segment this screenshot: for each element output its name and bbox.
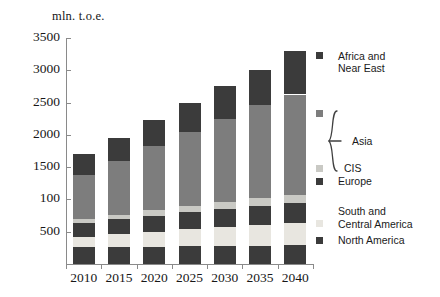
bar-segment-2020-cis (143, 210, 165, 215)
bar-segment-2015-cis (108, 215, 130, 219)
x-tick-origin (66, 264, 67, 269)
bar-segment-2010-asia (73, 175, 95, 219)
bar-segment-2020-asia (143, 146, 165, 210)
bar-segment-2025-cis (179, 206, 201, 212)
y-tick-label-3500: 3500 (14, 29, 60, 45)
bar-segment-2025-south-and-central-america (179, 229, 201, 246)
y-tick-label-2500: 2500 (14, 94, 60, 110)
legend-swatch-asia (316, 110, 323, 117)
bar-segment-2010-europe (73, 223, 95, 237)
legend-label-south-and-central-america-line1: South and (338, 205, 386, 218)
x-tick-2030 (242, 264, 243, 269)
legend: Africa and Near East Asia CIS Europe Sou… (316, 52, 440, 282)
legend-swatch-south-and-central-america (316, 220, 323, 227)
legend-swatch-north-america (316, 237, 323, 244)
legend-label-asia: Asia (352, 135, 372, 147)
bar-segment-2015-europe (108, 219, 130, 234)
bar-segment-2010-north-america (73, 247, 95, 264)
x-tick-2015 (137, 264, 138, 269)
bar-segment-2010-africa-and-near-east (73, 154, 95, 175)
y-tick-label-1500: 1500 (14, 158, 60, 174)
bar-segment-2030-cis (214, 202, 236, 208)
bar-segment-2030-asia (214, 119, 236, 202)
y-axis-labels: 50010015002000250030003500 (14, 0, 60, 297)
bar-segment-2015-south-and-central-america (108, 234, 130, 247)
x-axis-line (66, 264, 313, 265)
y-tick-label-3000: 3000 (14, 61, 60, 77)
bar-2030[interactable] (214, 38, 236, 264)
bar-segment-2020-europe (143, 216, 165, 232)
bar-segment-2020-north-america (143, 247, 165, 264)
bar-segment-2015-africa-and-near-east (108, 138, 130, 161)
legend-label-south-and-central-america-line2: Central America (338, 218, 413, 231)
bar-segment-2040-north-america (284, 245, 306, 264)
bar-segment-2030-north-america (214, 246, 236, 264)
bar-segment-2010-cis (73, 219, 95, 223)
bar-segment-2040-asia (284, 95, 306, 196)
bar-segment-2035-europe (249, 206, 271, 225)
bar-segment-2025-asia (179, 132, 201, 206)
legend-label-africa-and-near-east-line1: Africa and (338, 50, 385, 63)
x-tick-2010 (101, 264, 102, 269)
legend-label-north-america: North America (338, 234, 405, 247)
asia-brace-icon (328, 110, 342, 172)
x-tick-label-2040: 2040 (271, 270, 319, 286)
bar-segment-2015-north-america (108, 247, 130, 264)
y-tick-label-1000: 100 (14, 190, 60, 206)
bar-2040[interactable] (284, 38, 306, 264)
x-tick-2040 (313, 264, 314, 269)
bar-segment-2035-cis (249, 198, 271, 205)
bar-segment-2015-asia (108, 161, 130, 215)
bar-segment-2020-south-and-central-america (143, 232, 165, 247)
bar-segment-2040-cis (284, 195, 306, 203)
bar-segment-2035-asia (249, 105, 271, 198)
bar-segment-2025-north-america (179, 246, 201, 264)
bar-2015[interactable] (108, 38, 130, 264)
bar-segment-2040-europe (284, 203, 306, 223)
bar-2025[interactable] (179, 38, 201, 264)
y-axis-line (66, 38, 67, 265)
bar-segment-2030-europe (214, 209, 236, 227)
y-tick-label-2000: 2000 (14, 126, 60, 142)
legend-label-cis: CIS (344, 162, 362, 175)
bar-segment-2030-south-and-central-america (214, 227, 236, 246)
bar-segment-2035-africa-and-near-east (249, 70, 271, 105)
x-tick-2035 (278, 264, 279, 269)
y-tick-label-500: 500 (14, 223, 60, 239)
legend-label-europe: Europe (338, 175, 372, 188)
x-tick-2020 (172, 264, 173, 269)
bar-segment-2025-africa-and-near-east (179, 103, 201, 133)
bar-segment-2035-north-america (249, 246, 271, 264)
legend-label-africa-and-near-east-line2: Near East (338, 62, 385, 75)
x-tick-2025 (207, 264, 208, 269)
bar-segment-2025-europe (179, 212, 201, 229)
legend-swatch-africa-and-near-east (316, 52, 323, 59)
bar-2035[interactable] (249, 38, 271, 264)
chart-container: mln. t.o.e. 50010015002000250030003500 2… (0, 0, 440, 297)
bar-segment-2030-africa-and-near-east (214, 86, 236, 119)
legend-swatch-europe (316, 178, 323, 185)
bar-2010[interactable] (73, 38, 95, 264)
bar-segment-2020-africa-and-near-east (143, 120, 165, 146)
legend-swatch-cis (316, 165, 323, 172)
bar-segment-2035-south-and-central-america (249, 225, 271, 246)
bar-segment-2010-south-and-central-america (73, 237, 95, 247)
bar-segment-2040-south-and-central-america (284, 223, 306, 246)
bar-2020[interactable] (143, 38, 165, 264)
bar-segment-2040-africa-and-near-east (284, 51, 306, 95)
